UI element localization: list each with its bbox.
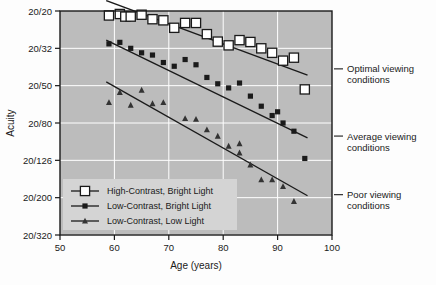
data-point-open-square: [278, 56, 287, 65]
data-point-open-square: [170, 23, 179, 32]
data-point-open-square: [191, 18, 200, 27]
y-tick-label: 20/32: [28, 43, 52, 54]
data-point-filled-square: [139, 50, 144, 55]
data-point-filled-square: [226, 85, 231, 90]
x-tick-label: 70: [164, 242, 175, 253]
data-point-open-square: [300, 85, 309, 94]
chart-canvas: 20/2020/3220/5020/8020/12620/20020/320 5…: [0, 0, 436, 285]
annotation-label-line2: conditions: [347, 142, 390, 153]
data-point-filled-square: [117, 40, 122, 45]
y-tick-label: 20/50: [28, 80, 52, 91]
data-point-filled-square: [215, 81, 220, 86]
legend-label: Low-Contrast, Bright Light: [107, 201, 212, 211]
x-tick-label: 80: [218, 242, 229, 253]
annotation-label-line2: conditions: [347, 74, 390, 85]
annotation-label-line1: Optimal viewing: [347, 63, 414, 74]
data-point-open-square: [224, 41, 233, 50]
data-point-open-square: [159, 16, 168, 25]
data-point-filled-square: [248, 94, 253, 99]
chart-legend: High-Contrast, Bright LightLow-Contrast,…: [63, 179, 237, 230]
data-point-filled-square: [270, 113, 275, 118]
data-point-open-square: [213, 37, 222, 46]
data-point-open-square: [126, 12, 135, 21]
data-point-filled-square: [237, 80, 242, 85]
data-point-filled-square: [275, 109, 280, 114]
x-tick-label: 90: [272, 242, 283, 253]
x-tick-label: 60: [109, 242, 120, 253]
data-point-open-square: [268, 48, 277, 57]
x-tick-label: 50: [55, 242, 66, 253]
y-tick-label: 20/126: [23, 155, 52, 166]
data-point-filled-square: [183, 57, 188, 62]
data-point-open-square: [246, 37, 255, 46]
data-point-filled-square: [302, 156, 307, 161]
data-point-open-square: [104, 11, 113, 20]
annotation-label-line2: conditions: [347, 200, 390, 211]
data-point-filled-square: [128, 46, 133, 51]
y-axis-title: Acuity: [5, 109, 16, 136]
data-point-filled-square: [204, 75, 209, 80]
data-point-filled-square: [193, 62, 198, 67]
y-tick-label: 20/20: [28, 6, 52, 17]
data-point-open-square: [181, 18, 190, 27]
legend-marker-open-square: [80, 186, 89, 195]
data-point-open-square: [148, 15, 157, 24]
legend-label: High-Contrast, Bright Light: [107, 186, 214, 196]
y-tick-label: 20/200: [23, 192, 52, 203]
data-point-filled-square: [150, 52, 155, 57]
x-tick-label: 100: [324, 242, 340, 253]
data-point-filled-square: [161, 60, 166, 65]
data-point-open-square: [202, 30, 211, 39]
data-point-filled-square: [106, 41, 111, 46]
data-point-open-square: [257, 44, 266, 53]
data-point-filled-square: [280, 120, 285, 125]
data-point-filled-square: [259, 104, 264, 109]
data-point-open-square: [289, 53, 298, 62]
annotation-label-line1: Poor viewing: [347, 189, 401, 200]
x-axis-title: Age (years): [170, 260, 222, 271]
data-point-open-square: [235, 36, 244, 45]
legend-marker-filled-square: [82, 203, 87, 208]
data-point-filled-square: [291, 129, 296, 134]
data-point-filled-square: [172, 64, 177, 69]
acuity-vs-age-chart: 20/2020/3220/5020/8020/12620/20020/320 5…: [0, 0, 436, 285]
y-tick-label: 20/320: [23, 230, 52, 241]
legend-label: Low-Contrast, Low Light: [107, 216, 205, 226]
y-tick-label: 20/80: [28, 118, 52, 129]
annotation-label-line1: Average viewing: [347, 131, 417, 142]
